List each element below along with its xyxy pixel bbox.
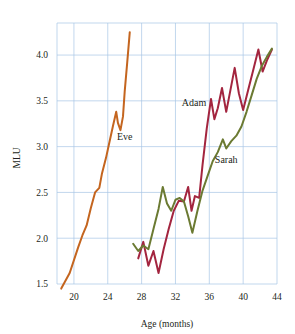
x-tick-label: 36 xyxy=(205,292,215,302)
y-tick-label: 2.5 xyxy=(36,188,48,198)
y-tick-labels-group: 1.52.02.53.03.54.0 xyxy=(36,50,48,289)
series-lines-group xyxy=(61,32,272,288)
x-tick-labels-group: 20242832364044 xyxy=(69,292,282,302)
series-line-eve xyxy=(61,32,130,288)
chart-canvas: 1.52.02.53.03.54.0 20242832364044 EveAda… xyxy=(0,0,295,334)
x-tick-label: 40 xyxy=(238,292,248,302)
y-tick-label: 3.0 xyxy=(36,142,48,152)
y-tick-label: 3.5 xyxy=(36,96,48,106)
series-labels-group: EveAdamSarah xyxy=(117,97,238,165)
x-tick-label: 20 xyxy=(69,292,79,302)
x-tick-label: 32 xyxy=(171,292,181,302)
x-tick-label: 28 xyxy=(137,292,147,302)
y-axis-title: MLU xyxy=(12,147,22,168)
x-tick-label: 44 xyxy=(272,292,282,302)
mlu-age-line-chart: 1.52.02.53.03.54.0 20242832364044 EveAda… xyxy=(0,0,295,334)
x-axis-title: Age (months) xyxy=(141,319,194,330)
series-label-eve: Eve xyxy=(117,131,133,142)
gridlines-group xyxy=(57,23,277,284)
series-label-sarah: Sarah xyxy=(215,154,238,165)
y-tick-label: 4.0 xyxy=(36,50,48,60)
series-line-adam xyxy=(138,50,272,273)
y-tick-label: 2.0 xyxy=(36,234,48,244)
x-tick-label: 24 xyxy=(103,292,113,302)
series-label-adam: Adam xyxy=(182,97,207,108)
y-tick-label: 1.5 xyxy=(36,279,48,289)
